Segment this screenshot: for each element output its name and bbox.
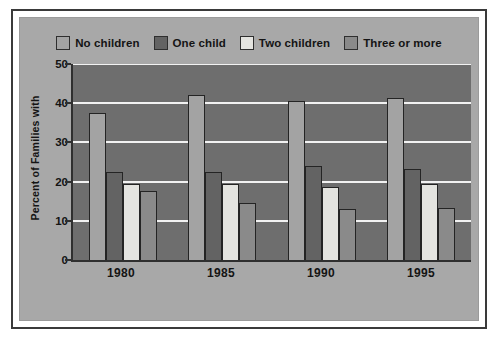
bar[interactable] — [205, 172, 222, 260]
bar[interactable] — [239, 203, 256, 260]
figure-outer-frame: No childrenOne childTwo childrenThree or… — [11, 9, 487, 329]
bar[interactable] — [322, 187, 339, 260]
plot-area — [71, 64, 471, 260]
bar-group — [272, 64, 372, 260]
x-axis-tick-label: 1985 — [171, 266, 271, 280]
bar[interactable] — [438, 208, 455, 260]
bar[interactable] — [339, 209, 356, 260]
y-axis-tick-mark — [65, 220, 71, 222]
x-axis-tick-label: 1980 — [71, 266, 171, 280]
y-axis-tick-mark — [65, 63, 71, 65]
y-axis-tick-mark — [65, 259, 71, 261]
bar[interactable] — [288, 101, 305, 260]
plot-wrapper: Percent of Families with 01020304050 198… — [20, 18, 478, 320]
x-axis-tick-labels: 1980198519901995 — [71, 266, 471, 280]
figure-root: No childrenOne childTwo childrenThree or… — [0, 0, 498, 339]
x-axis-tick-label: 1995 — [371, 266, 471, 280]
x-axis-line — [71, 260, 471, 262]
y-axis-title-text: Percent of Families with — [28, 96, 40, 221]
bar[interactable] — [305, 166, 322, 260]
y-axis-tick-mark — [65, 102, 71, 104]
bar[interactable] — [106, 172, 123, 260]
bar[interactable] — [89, 113, 106, 260]
y-axis-tick-mark — [65, 181, 71, 183]
bar[interactable] — [222, 184, 239, 260]
bar[interactable] — [123, 184, 140, 260]
y-axis-title: Percent of Families with — [26, 68, 42, 248]
bar[interactable] — [188, 95, 205, 260]
bar-groups — [73, 64, 471, 260]
x-axis-tick-label: 1990 — [271, 266, 371, 280]
y-axis-tick-mark — [65, 141, 71, 143]
bar[interactable] — [404, 169, 421, 260]
bar-group — [73, 64, 173, 260]
bar[interactable] — [140, 191, 157, 260]
bar-group — [372, 64, 472, 260]
bar-group — [173, 64, 273, 260]
figure-inner-panel: No childrenOne childTwo childrenThree or… — [19, 17, 479, 321]
bar[interactable] — [421, 184, 438, 260]
y-axis-tick-labels: 01020304050 — [42, 64, 68, 260]
bar[interactable] — [387, 98, 404, 260]
